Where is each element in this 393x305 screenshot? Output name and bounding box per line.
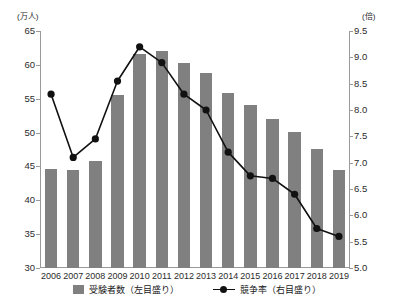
right-tick-label: 8.5 — [354, 79, 384, 89]
marker-2012 — [180, 91, 187, 98]
left-tick-label: 60 — [7, 60, 35, 70]
right-tick-label: 5.0 — [354, 263, 384, 273]
right-tick-label: 7.5 — [354, 131, 384, 141]
marker-2006 — [47, 91, 54, 98]
x-label-2011: 2011 — [151, 272, 173, 281]
left-tick-label: 45 — [7, 161, 35, 171]
marker-2013 — [202, 106, 209, 113]
right-tick-label: 7.0 — [354, 158, 384, 168]
marker-2007 — [70, 154, 77, 161]
left-tick-label: 65 — [7, 26, 35, 36]
right-tick-label: 9.0 — [354, 52, 384, 62]
bar-swatch-icon — [73, 285, 84, 294]
marker-2018 — [313, 225, 320, 232]
line-marker-icon — [213, 285, 235, 294]
chart-legend: 受験者数（左目盛り） 競争率（右目盛り） — [0, 283, 393, 296]
left-tick-mark — [36, 268, 40, 269]
x-label-2012: 2012 — [173, 272, 195, 281]
x-label-2017: 2017 — [284, 272, 306, 281]
x-label-2010: 2010 — [129, 272, 151, 281]
right-tick-mark — [349, 268, 353, 269]
x-label-2009: 2009 — [106, 272, 128, 281]
x-label-2013: 2013 — [195, 272, 217, 281]
marker-2019 — [335, 233, 342, 240]
legend-label-examinees: 受験者数（左目盛り） — [89, 283, 179, 296]
x-label-2016: 2016 — [261, 272, 283, 281]
marker-2014 — [225, 149, 232, 156]
x-label-2019: 2019 — [328, 272, 350, 281]
right-tick-label: 6.0 — [354, 210, 384, 220]
chart-container: (万人) (倍) 3035404550556065 5.05.56.06.57.… — [0, 0, 393, 305]
marker-2010 — [136, 43, 143, 50]
x-label-2015: 2015 — [239, 272, 261, 281]
line-series-group — [40, 31, 350, 268]
legend-item-competition-ratio: 競争率（右目盛り） — [213, 283, 321, 296]
marker-2016 — [269, 175, 276, 182]
left-tick-label: 55 — [7, 94, 35, 104]
left-tick-label: 30 — [7, 263, 35, 273]
right-axis-unit-label: (倍) — [362, 10, 375, 21]
right-tick-label: 5.5 — [354, 237, 384, 247]
left-tick-label: 35 — [7, 229, 35, 239]
right-tick-label: 9.5 — [354, 26, 384, 36]
marker-2009 — [114, 77, 121, 84]
right-tick-label: 6.5 — [354, 184, 384, 194]
x-label-2018: 2018 — [306, 272, 328, 281]
right-tick-label: 8.0 — [354, 105, 384, 115]
marker-2017 — [291, 191, 298, 198]
left-tick-label: 50 — [7, 128, 35, 138]
legend-label-competition-ratio: 競争率（右目盛り） — [240, 283, 321, 296]
plot-area: 3035404550556065 5.05.56.06.57.07.58.08.… — [40, 31, 350, 268]
left-tick-label: 40 — [7, 195, 35, 205]
marker-2008 — [92, 135, 99, 142]
x-label-2008: 2008 — [84, 272, 106, 281]
x-label-2006: 2006 — [40, 272, 62, 281]
marker-2015 — [247, 172, 254, 179]
x-label-2014: 2014 — [217, 272, 239, 281]
marker-2011 — [158, 59, 165, 66]
x-label-2007: 2007 — [62, 272, 84, 281]
legend-item-examinees: 受験者数（左目盛り） — [73, 283, 179, 296]
left-axis-unit-label: (万人) — [17, 10, 38, 21]
